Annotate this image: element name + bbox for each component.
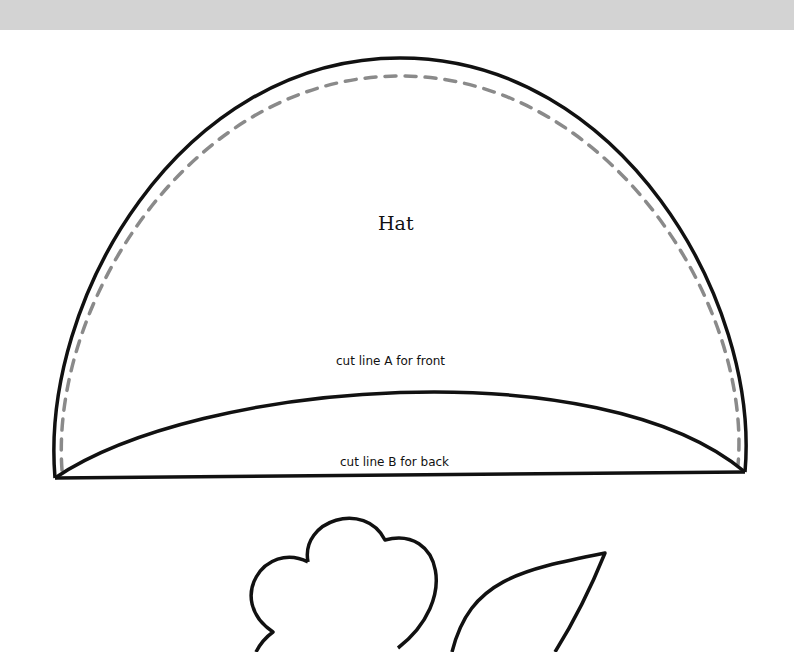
cut-line-b-label: cut line B for back [340, 455, 449, 469]
hat-outline [54, 58, 746, 478]
cut-line-a-label: cut line A for front [336, 354, 445, 368]
hat-title: Hat [378, 212, 414, 234]
leaf-shape [452, 553, 605, 652]
pattern-drawing [0, 0, 794, 652]
cut-line-b [55, 472, 745, 478]
hat-seam-dashed [61, 76, 739, 470]
flower-shape [251, 518, 436, 652]
